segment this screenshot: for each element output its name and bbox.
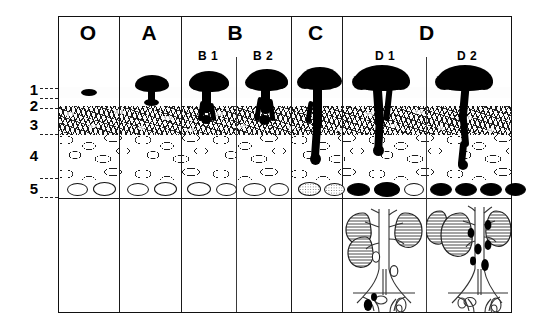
para-aortic-node-d2-filled-2 [485,220,492,230]
tumor-lesion-a [133,75,171,107]
lymph-node-d1-2 [374,182,400,197]
tumor-c-lobe-left [297,75,313,89]
tumor-d1-finger-1 [383,87,393,121]
tumor-lesion-b1 [187,71,231,133]
tumor-lesion-d1 [352,65,414,169]
para-aortic-node-d2-filled-5 [481,259,489,271]
lymph-node-o-1 [67,183,88,196]
para-aortic-node-d1-clear-2 [390,266,398,277]
anatomy-panel-d2 [426,199,511,313]
lymph-node-o-2 [93,182,116,196]
layer-leader-2a [40,98,58,99]
lymph-node-c-2 [324,183,345,196]
divider-a-b [181,17,182,312]
lymph-node-d1-3 [404,183,424,196]
tumor-d2-deep-tip [458,160,468,170]
diagram-frame [58,16,512,313]
layer-label-5: 5 [18,181,38,196]
divider-b1-b2 [236,57,237,312]
layer-leader-2b [40,108,58,109]
layer-label-1: 1 [18,82,38,97]
tumor-b1-lobe-right [213,76,229,90]
lymph-node-b1-2 [216,183,237,196]
divider-o-a [119,17,120,312]
lymph-node-b2-1 [243,183,266,196]
tumor-d2-lobe-right [475,75,493,90]
layer-leader-3 [40,134,58,135]
anatomy-panel-d1 [343,199,426,313]
tumor-b2-lobe-left [245,76,261,89]
lymph-node-d2-1 [430,183,452,196]
kidney-left-d1 [346,213,373,267]
lymph-node-b1-1 [187,182,211,196]
layer-label-2: 2 [18,98,38,113]
lymph-node-c-1 [298,182,321,196]
lymph-node-d2-4 [505,183,526,196]
tumor-b2-lobe-right [272,75,288,89]
tumor-d2-lobe-left [435,74,454,90]
tumor-a-lobe-left [136,79,149,90]
divider-b-c [291,17,292,312]
layer-leader-5 [40,197,58,198]
tumor-a-lobe-right [155,78,168,90]
kidney-left-d2 [426,211,472,256]
lymph-node-b2-2 [269,183,289,196]
layer-label-3: 3 [18,117,38,132]
pelvic-vessels-d2 [458,297,501,313]
tumor-lesion-o [81,88,97,97]
tumor-lesion-b2 [244,69,290,135]
tumor-b1-deep-tip [201,115,211,124]
lymph-node-d2-2 [455,183,477,196]
para-aortic-node-d2-filled-6 [470,257,476,266]
tumor-lesion-d2 [435,65,497,173]
para-aortic-node-d1-clear-1 [372,252,379,262]
pelvic-node-d1-filled-2 [371,293,377,301]
para-aortic-node-d2-filled-1 [468,228,475,238]
para-aortic-node-d2-filled-4 [485,240,492,250]
tumor-b2-deep-tip [259,115,270,125]
lymph-node-d1-1 [347,183,370,196]
layer-label-4: 4 [18,148,38,163]
tumor-lesion-c [297,67,343,179]
kidney-right-d1 [395,213,422,247]
tumor-c-deep-tip [310,153,321,165]
layer-leader-4 [40,178,58,179]
lymph-node-a-2 [154,182,177,196]
tumor-d1-deep-tip [373,145,384,156]
tumor-c-trunk [313,85,322,129]
layer-leader-1 [40,88,58,89]
lymph-node-a-1 [127,183,149,196]
tumor-a-base [144,99,159,106]
lymph-node-d2-3 [480,183,502,196]
pelvic-node-d1-filled-1 [364,299,372,311]
tumor-o-cap [81,89,97,96]
tumor-d2-lobe-mid [455,67,475,85]
para-aortic-node-d2-filled-3 [474,244,481,255]
figure-canvas: 1 2 3 4 5 O A B C D B 1 B 2 D 1 D 2 [0,0,547,330]
tumor-c-lobe-right [325,74,342,88]
tumor-d1-lobe-left [352,74,371,90]
tumor-d1-lobe-mid [372,68,391,85]
tumor-d1-lobe-right [391,75,410,90]
